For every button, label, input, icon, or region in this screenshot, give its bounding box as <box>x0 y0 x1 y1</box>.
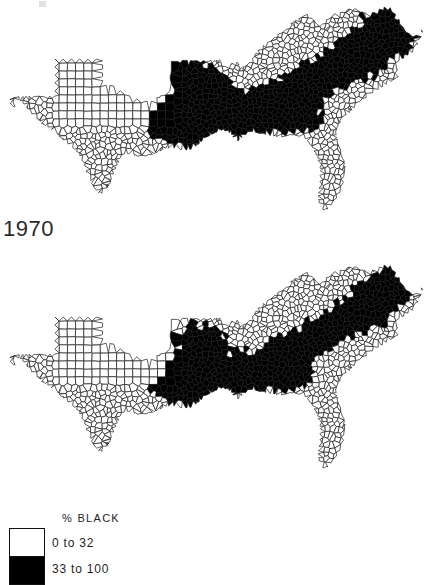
county <box>47 376 54 381</box>
county <box>67 337 75 345</box>
county <box>92 79 103 87</box>
county <box>421 30 422 32</box>
county <box>233 392 238 394</box>
county <box>355 97 362 103</box>
county <box>55 71 59 79</box>
county <box>46 356 53 361</box>
county <box>84 317 92 321</box>
county <box>116 119 124 127</box>
county <box>100 353 108 361</box>
county <box>92 87 101 95</box>
county <box>92 345 101 353</box>
county <box>149 119 157 127</box>
county <box>59 95 67 103</box>
county <box>92 337 103 345</box>
county <box>141 369 149 377</box>
county <box>76 317 84 321</box>
county <box>67 329 76 337</box>
county <box>365 88 373 93</box>
county <box>109 361 117 369</box>
county <box>158 111 166 119</box>
county <box>126 148 133 154</box>
county <box>321 168 326 174</box>
county <box>324 189 330 194</box>
county <box>240 387 247 393</box>
county <box>55 321 59 329</box>
county <box>162 144 168 148</box>
county <box>76 59 84 63</box>
county <box>59 345 67 353</box>
county <box>55 337 59 344</box>
legend-title: % BLACK <box>62 512 120 524</box>
county <box>67 71 76 79</box>
county <box>84 63 92 71</box>
county <box>362 330 367 336</box>
county <box>84 95 92 103</box>
county <box>55 329 59 337</box>
county <box>158 369 166 377</box>
county <box>157 361 166 369</box>
county <box>355 355 362 361</box>
county <box>92 317 102 321</box>
county <box>47 361 53 366</box>
county <box>67 353 75 361</box>
county <box>47 103 53 108</box>
county <box>322 417 327 421</box>
county <box>108 369 117 377</box>
county <box>263 78 269 85</box>
county <box>199 138 203 142</box>
county <box>59 329 67 337</box>
county <box>46 98 53 103</box>
map-1970 <box>0 0 433 225</box>
county <box>167 139 173 144</box>
county <box>133 369 141 377</box>
county <box>117 95 125 103</box>
county <box>166 369 175 377</box>
county <box>92 103 100 111</box>
county <box>222 339 228 345</box>
county <box>319 184 324 188</box>
county <box>182 143 187 150</box>
county <box>92 59 102 63</box>
legend-entry-low: 0 to 32 <box>52 536 94 550</box>
county <box>239 135 242 138</box>
county <box>319 442 324 446</box>
county <box>100 377 108 384</box>
county <box>59 111 67 119</box>
county <box>67 345 75 353</box>
county <box>84 329 92 337</box>
county <box>263 336 269 343</box>
county <box>168 144 173 148</box>
county <box>125 369 133 377</box>
county <box>192 73 199 79</box>
map-panel-1970: 1970 <box>0 0 433 250</box>
county <box>55 59 59 63</box>
county <box>149 359 157 369</box>
county <box>90 427 95 433</box>
county <box>157 95 166 103</box>
county <box>84 59 92 63</box>
county <box>84 321 92 329</box>
county <box>133 103 141 111</box>
county <box>67 111 75 119</box>
county <box>67 79 75 87</box>
county <box>67 321 75 329</box>
legend-swatch-high <box>10 557 44 585</box>
county <box>193 143 199 146</box>
county <box>67 63 75 71</box>
county <box>108 111 117 119</box>
county <box>233 134 238 136</box>
county <box>266 128 273 136</box>
county <box>67 103 75 111</box>
county <box>84 79 92 87</box>
legend: % BLACK 0 to 32 33 to 100 <box>0 505 200 585</box>
county <box>59 353 67 361</box>
county <box>239 393 242 396</box>
county <box>100 103 108 111</box>
county <box>173 144 176 148</box>
county <box>75 321 83 329</box>
county <box>322 159 327 163</box>
county <box>141 359 149 369</box>
county <box>59 71 67 79</box>
county <box>100 369 108 377</box>
